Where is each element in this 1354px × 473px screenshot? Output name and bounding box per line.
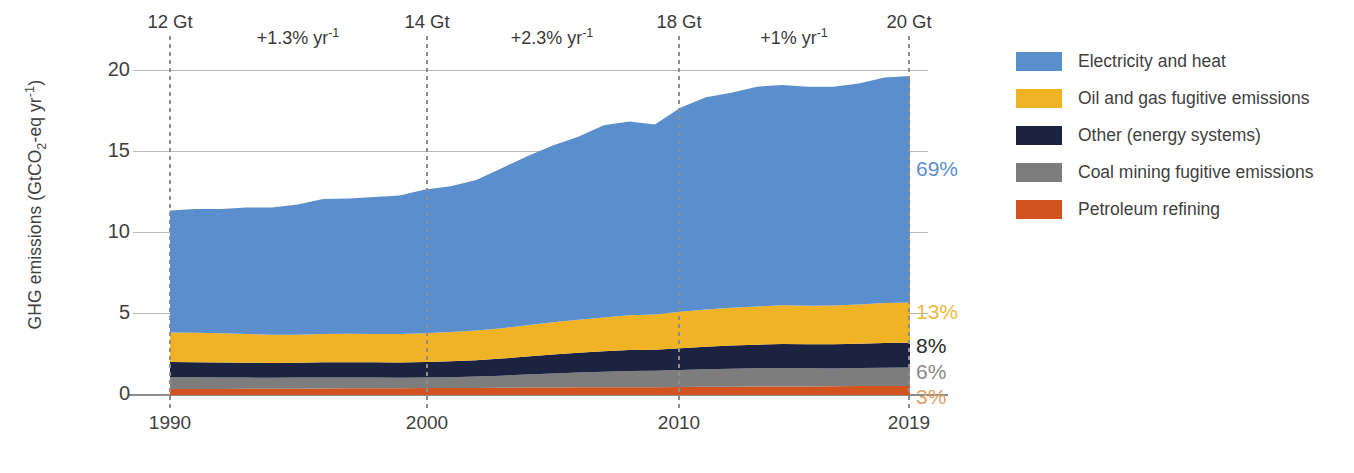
share-label-oil-gas-fugitive: 13% — [916, 300, 958, 324]
y-axis-title-container: GHG emissions (GtCO2-eq yr-1) — [0, 0, 62, 420]
legend-item-petroleum-refining[interactable]: Petroleum refining — [1016, 192, 1346, 227]
area-series-electricity-and-heat — [170, 76, 910, 335]
annotation-rate-2000-2010: +2.3% yr-1 — [442, 26, 662, 49]
annotation-rate-1990-2000: +1.3% yr-1 — [188, 26, 408, 49]
legend-swatch-oil-gas-fugitive — [1016, 89, 1062, 108]
chart-legend: Electricity and heat Oil and gas fugitiv… — [1016, 44, 1346, 229]
annotation-rate-1990-2000-text: +1.3% yr — [257, 28, 329, 48]
area-chart-svg — [170, 70, 910, 395]
legend-item-coal-mining-fugitive[interactable]: Coal mining fugitive emissions — [1016, 155, 1346, 190]
legend-label-oil-gas-fugitive: Oil and gas fugitive emissions — [1078, 88, 1310, 109]
chart-figure: GHG emissions (GtCO2-eq yr-1) 20 15 10 5… — [0, 0, 1354, 473]
annotation-rate-2010-2019-sup: -1 — [817, 26, 828, 40]
area-layers — [170, 76, 910, 395]
legend-item-other-energy-systems[interactable]: Other (energy systems) — [1016, 118, 1346, 153]
share-label-electricity-heat: 69% — [916, 157, 958, 181]
x-tick-2000: 2000 — [372, 412, 482, 434]
y-tick-15: 15 — [84, 139, 130, 162]
share-label-other-energy-systems: 8% — [916, 334, 946, 358]
y-axis-title-tail: ) — [25, 80, 45, 86]
legend-label-petroleum-refining: Petroleum refining — [1078, 199, 1220, 220]
y-axis-title: GHG emissions (GtCO2-eq yr-1) — [23, 35, 48, 375]
annotation-rate-2010-2019: +1% yr-1 — [684, 26, 904, 49]
x-tick-1990: 1990 — [115, 412, 225, 434]
marker-line-2019 — [908, 36, 910, 411]
stacked-area-plot — [170, 70, 910, 395]
y-tick-5: 5 — [84, 301, 130, 324]
x-tick-2010: 2010 — [624, 412, 734, 434]
marker-line-2010 — [678, 36, 680, 411]
y-axis-title-sup: -1 — [23, 86, 37, 97]
legend-swatch-petroleum-refining — [1016, 200, 1062, 219]
share-label-coal-mining-fugitive: 6% — [916, 360, 946, 384]
legend-swatch-electricity-heat — [1016, 52, 1062, 71]
y-tick-10: 10 — [84, 220, 130, 243]
legend-swatch-other-energy-systems — [1016, 126, 1062, 145]
share-label-petroleum-refining: 3% — [916, 385, 946, 409]
annotation-rate-2000-2010-text: +2.3% yr — [511, 28, 583, 48]
legend-label-other-energy-systems: Other (energy systems) — [1078, 125, 1261, 146]
x-tick-2019: 2019 — [854, 412, 964, 434]
annotation-rate-2010-2019-text: +1% yr — [760, 28, 817, 48]
y-axis-title-mid: -eq yr — [25, 97, 45, 142]
legend-label-coal-mining-fugitive: Coal mining fugitive emissions — [1078, 162, 1313, 183]
marker-line-2000 — [426, 36, 428, 411]
legend-item-electricity-heat[interactable]: Electricity and heat — [1016, 44, 1346, 79]
annotation-rate-2000-2010-sup: -1 — [582, 26, 593, 40]
y-tick-20: 20 — [84, 58, 130, 81]
y-tick-0: 0 — [84, 382, 130, 405]
legend-item-oil-gas-fugitive[interactable]: Oil and gas fugitive emissions — [1016, 81, 1346, 116]
marker-line-1990 — [169, 36, 171, 411]
legend-label-electricity-heat: Electricity and heat — [1078, 51, 1226, 72]
y-axis-title-sub: 2 — [35, 143, 49, 150]
y-axis-title-head: GHG emissions (GtCO — [25, 150, 45, 330]
legend-swatch-coal-mining-fugitive — [1016, 163, 1062, 182]
annotation-rate-1990-2000-sup: -1 — [328, 26, 339, 40]
